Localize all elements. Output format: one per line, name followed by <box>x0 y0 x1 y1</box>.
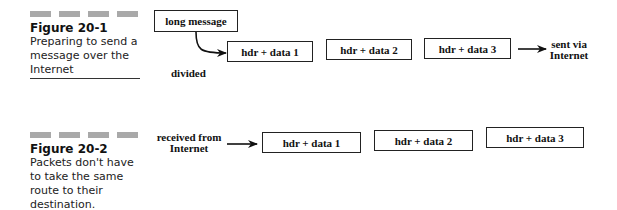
packet-box-1: hdr + data 1 <box>227 41 313 62</box>
figure-2-caption: Figure 20-2 Packets don't have to take t… <box>30 132 140 210</box>
decorative-bars <box>30 11 140 17</box>
packet-box-2: hdr + data 2 <box>374 130 473 151</box>
divide-arrow <box>196 32 226 53</box>
packet-box-2: hdr + data 2 <box>326 39 412 60</box>
figure-caption-text: Preparing to send a message over the Int… <box>30 35 140 79</box>
sent-via-internet-label: sent via Internet <box>549 39 589 61</box>
packet-box-3: hdr + data 3 <box>424 38 511 59</box>
figure-1-caption: Figure 20-1 Preparing to send a message … <box>30 11 140 79</box>
figure-number: Figure 20-2 <box>30 142 140 156</box>
divided-label: divided <box>171 68 206 79</box>
long-message-box: long message <box>154 10 238 32</box>
figure-caption-text: Packets don't have to take the same rout… <box>30 156 140 210</box>
packet-box-3: hdr + data 3 <box>486 127 584 148</box>
packet-box-1: hdr + data 1 <box>262 132 361 153</box>
figure-number: Figure 20-1 <box>30 21 140 35</box>
received-from-internet-label: received from Internet <box>153 132 225 154</box>
decorative-bars <box>30 132 140 138</box>
